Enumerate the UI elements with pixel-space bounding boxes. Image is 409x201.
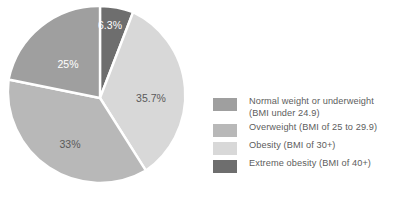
pie-label-overweight: 33% xyxy=(59,138,80,150)
legend-swatch-icon-extreme-obesity xyxy=(213,160,237,173)
legend-item-obesity[interactable]: Obesity (BMI of 30+) xyxy=(213,140,409,155)
pie-label-extreme-obesity: 6.3% xyxy=(98,19,122,31)
legend-label-obesity: Obesity (BMI of 30+) xyxy=(249,140,336,152)
legend-item-normal-weight[interactable]: Normal weight or underweight (BMI under … xyxy=(213,96,409,119)
legend-label-normal-weight: Normal weight or underweight (BMI under … xyxy=(249,96,374,119)
legend-item-extreme-obesity[interactable]: Extreme obesity (BMI of 40+) xyxy=(213,158,409,173)
pie-label-normal-weight: 25% xyxy=(57,58,78,70)
legend-label-overweight: Overweight (BMI of 25 to 29.9) xyxy=(249,122,377,134)
legend-swatch-icon-overweight xyxy=(213,124,237,137)
legend-swatch-icon-normal-weight xyxy=(213,98,237,111)
chart-legend: Normal weight or underweight (BMI under … xyxy=(213,96,409,176)
legend-swatch-icon-obesity xyxy=(213,142,237,155)
legend-item-overweight[interactable]: Overweight (BMI of 25 to 29.9) xyxy=(213,122,409,137)
pie-chart-plot: 6.3% 35.7% 33% 25% xyxy=(0,0,205,201)
pie-chart-figure: 6.3% 35.7% 33% 25% Normal weight or unde… xyxy=(0,0,409,201)
legend-label-extreme-obesity: Extreme obesity (BMI of 40+) xyxy=(249,158,371,170)
pie-label-obesity: 35.7% xyxy=(136,92,166,104)
pie-chart-svg: 6.3% 35.7% 33% 25% xyxy=(0,0,205,201)
